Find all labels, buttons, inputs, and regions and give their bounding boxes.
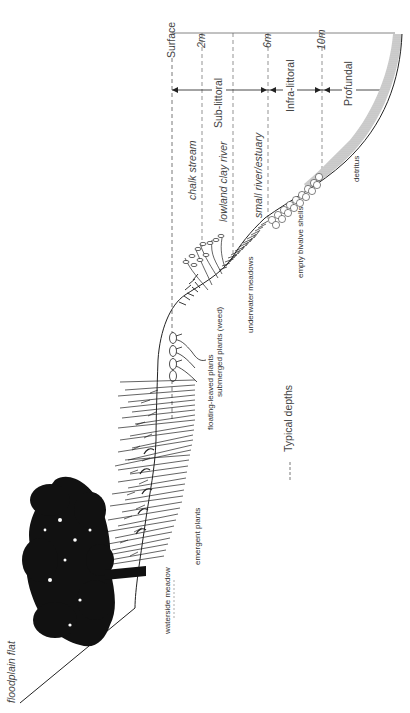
habitat-label-waterside-meadow: waterside meadow [163, 567, 172, 634]
arrowhead-surface [172, 87, 178, 93]
arrowhead-6m-right [270, 87, 276, 93]
habitat-label-empty-bivalve-shells: empty bivalve shells [296, 206, 305, 278]
depth-label-2m: 2m [195, 33, 207, 48]
arrowhead-10m-right [324, 87, 330, 93]
river-zonation-diagram: Surface 2m 6m 10m Sub-littoral Infra-lit… [0, 0, 410, 713]
legend-label-typical-depths: Typical depths [282, 385, 294, 452]
habitat-label-floodplain-flat: floodplain flat [5, 641, 17, 703]
depth-label-6m: 6m [261, 33, 273, 48]
zone-label-sub-littoral: Sub-littoral [212, 78, 224, 128]
river-type-lowland-clay-river: lowland clay river [217, 141, 229, 222]
habitat-label-submerged-plants: submerged plants (weed) [215, 307, 224, 397]
habitat-label-detritus: detritus [352, 156, 361, 182]
river-type-small-river-estuary: small river/estuary [252, 133, 264, 218]
habitat-label-underwater-meadows: underwater meadows [246, 257, 255, 333]
depth-label-10m: 10m [315, 30, 327, 50]
underwater-meadows [219, 221, 268, 270]
diagram-drawing [0, 0, 410, 713]
arrowhead-10m-left [315, 87, 321, 93]
zone-label-profundal: Profundal [342, 61, 354, 106]
river-type-chalk-stream: chalk stream [186, 140, 198, 200]
habitat-label-emergent-plants: emergent plants [193, 508, 202, 565]
arrowhead-6m-left [261, 87, 267, 93]
habitat-label-floating-leaved-plants: floating-leaved plants [206, 354, 215, 430]
depth-label-surface: Surface [165, 22, 177, 58]
zone-label-infra-littoral: Infra-littoral [284, 59, 296, 112]
floating-leaved-plants [170, 333, 207, 383]
emergent-plants [100, 380, 195, 566]
